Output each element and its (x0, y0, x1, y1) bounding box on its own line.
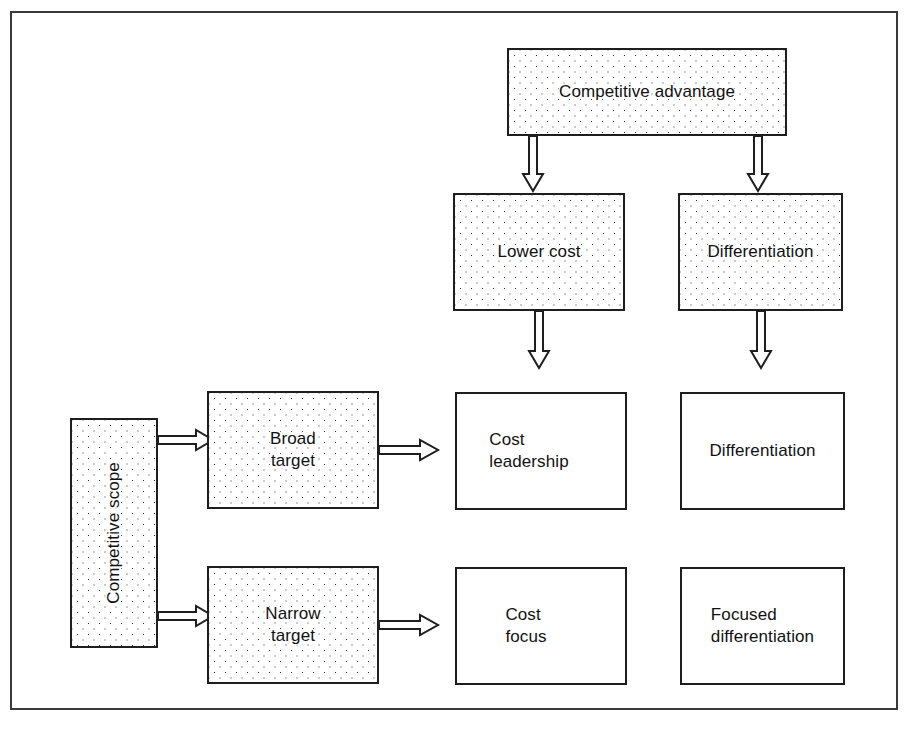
arrow-lower-cost-to-cost-leadership (527, 311, 551, 371)
node-broad-target: Broad target (207, 391, 379, 509)
node-competitive-scope-label: Competitive scope (103, 462, 125, 604)
arrow-broad-target-to-cost-leadership (379, 438, 441, 462)
node-differentiation-header-label: Differentiation (707, 241, 813, 263)
cell-cost-leadership-label: Cost leadership (489, 429, 568, 473)
node-differentiation-header: Differentiation (678, 193, 843, 311)
arrow-differentiation-to-differentiation-cell (749, 311, 773, 371)
cell-cost-leadership: Cost leadership (455, 392, 627, 510)
arrow-narrow-target-to-cost-focus (379, 613, 441, 637)
diagram-canvas: Competitive advantage Lower cost Differe… (0, 0, 909, 729)
node-competitive-advantage: Competitive advantage (507, 48, 787, 136)
node-lower-cost-label: Lower cost (497, 241, 580, 263)
cell-focused-differentiation-label: Focused differentiation (711, 604, 814, 648)
node-lower-cost: Lower cost (453, 193, 625, 311)
cell-differentiation: Differentiation (680, 392, 845, 510)
node-competitive-advantage-label: Competitive advantage (559, 81, 735, 103)
node-narrow-target: Narrow target (207, 566, 379, 684)
cell-cost-focus: Cost focus (455, 567, 627, 685)
cell-focused-differentiation: Focused differentiation (680, 567, 845, 685)
arrow-competitive-advantage-to-lower-cost (521, 136, 545, 194)
arrow-competitive-advantage-to-differentiation (746, 136, 770, 194)
cell-cost-focus-label: Cost focus (505, 604, 546, 648)
node-competitive-scope: Competitive scope (70, 418, 158, 648)
node-narrow-target-label: Narrow target (265, 603, 320, 647)
node-broad-target-label: Broad target (270, 428, 316, 472)
cell-differentiation-label: Differentiation (709, 440, 815, 462)
